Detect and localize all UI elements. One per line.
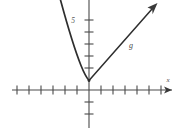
graph-figure: 5 x g: [0, 0, 183, 140]
x-axis-label: x: [165, 76, 170, 84]
curve-label-g: g: [129, 41, 133, 50]
y-tick-label-5: 5: [71, 16, 75, 25]
curve-right-branch: [89, 9, 152, 81]
coordinate-plane-svg: 5 x g: [0, 0, 183, 140]
curve-vertex-point: [88, 79, 91, 82]
